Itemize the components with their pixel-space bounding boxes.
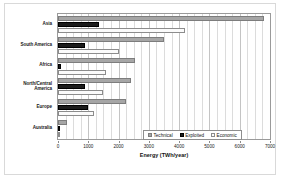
bar-exploited bbox=[58, 43, 85, 48]
bar-technical bbox=[58, 78, 131, 83]
legend-item-economic: Economic bbox=[211, 133, 237, 138]
bar-group bbox=[58, 78, 270, 95]
bar-technical bbox=[58, 37, 164, 42]
bar-economic bbox=[58, 111, 94, 116]
bar-economic bbox=[58, 49, 119, 54]
y-axis-category-labels: AsiaSouth AmericaAfricaNorth/Central Ame… bbox=[0, 13, 55, 140]
bar-group bbox=[58, 99, 270, 116]
x-tick-label: 3000 bbox=[144, 144, 154, 150]
legend-swatch-exploited bbox=[180, 133, 184, 137]
bar-group bbox=[58, 58, 270, 75]
y-axis-label-africa: Africa bbox=[0, 62, 52, 67]
x-tick-label: 0 bbox=[57, 144, 60, 150]
bar-group bbox=[58, 16, 270, 33]
bar-exploited bbox=[58, 22, 99, 27]
bar-technical bbox=[58, 16, 264, 21]
bar-exploited bbox=[58, 64, 61, 69]
x-tick-mark bbox=[58, 141, 59, 143]
bars-layer bbox=[58, 14, 270, 139]
legend-swatch-economic bbox=[211, 133, 215, 137]
x-axis-title: Energy (TWh/year) bbox=[57, 152, 271, 158]
bar-economic bbox=[58, 28, 185, 33]
x-tick-mark bbox=[119, 141, 120, 143]
legend-item-exploited: Exploited bbox=[180, 133, 204, 138]
bar-technical bbox=[58, 58, 135, 63]
x-tick-mark bbox=[209, 141, 210, 143]
x-tick-label: 2000 bbox=[113, 144, 123, 150]
x-tick-label: 4000 bbox=[174, 144, 184, 150]
chart-figure: AsiaSouth AmericaAfricaNorth/Central Ame… bbox=[0, 0, 283, 183]
bar-exploited bbox=[58, 84, 85, 89]
chart-legend: TechnicalExploitedEconomic bbox=[143, 130, 242, 140]
bar-economic bbox=[58, 70, 106, 75]
plot-area bbox=[57, 13, 271, 140]
x-tick-mark bbox=[240, 141, 241, 143]
x-tick-label: 6000 bbox=[235, 144, 245, 150]
bar-economic bbox=[58, 90, 103, 95]
x-tick-mark bbox=[149, 141, 150, 143]
legend-item-technical: Technical bbox=[148, 133, 173, 138]
x-tick-label: 7000 bbox=[265, 144, 275, 150]
legend-label: Technical bbox=[154, 133, 173, 138]
bar-exploited bbox=[58, 126, 60, 131]
bar-technical bbox=[58, 99, 126, 104]
x-tick-mark bbox=[179, 141, 180, 143]
bar-technical bbox=[58, 120, 67, 125]
bar-exploited bbox=[58, 105, 88, 110]
y-axis-label-australia: Australia bbox=[0, 125, 52, 130]
y-axis-label-europe: Europe bbox=[0, 104, 52, 109]
bar-group bbox=[58, 37, 270, 54]
legend-label: Exploited bbox=[185, 133, 204, 138]
legend-label: Economic bbox=[217, 133, 237, 138]
x-tick-label: 5000 bbox=[204, 144, 214, 150]
bar-economic bbox=[58, 132, 60, 137]
x-tick-mark bbox=[270, 141, 271, 143]
y-axis-label-asia: Asia bbox=[0, 21, 52, 26]
x-tick-mark bbox=[88, 141, 89, 143]
legend-swatch-technical bbox=[148, 133, 152, 137]
y-axis-label-north-central-america: North/Central America bbox=[0, 81, 52, 92]
x-tick-label: 1000 bbox=[83, 144, 93, 150]
y-axis-label-south-america: South America bbox=[0, 42, 52, 47]
